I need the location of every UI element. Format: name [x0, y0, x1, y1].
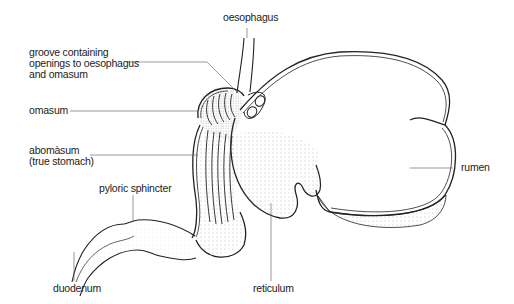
label-pyloric-sphincter: pyloric sphincter [99, 183, 171, 194]
groove-openings [244, 92, 267, 119]
label-groove-line3: and omasum [29, 69, 88, 80]
label-reticulum: reticulum [253, 283, 294, 294]
label-omasum: omasum [29, 105, 68, 116]
reticulum-shape [230, 118, 320, 218]
label-abomasum-line2: (true stomach) [29, 156, 94, 167]
label-oesophagus: oesophagus [223, 12, 278, 23]
label-duodenum: duodenum [53, 283, 101, 294]
oesophagus-shape [237, 38, 254, 93]
label-rumen: rumen [461, 162, 490, 173]
